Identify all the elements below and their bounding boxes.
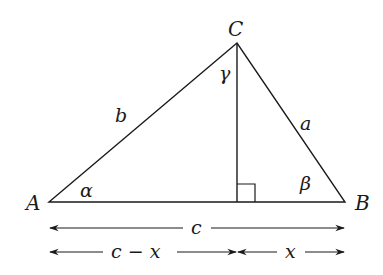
side-label-a: a <box>300 112 311 134</box>
dimension-label-c: c <box>191 216 202 238</box>
vertex-label-c: C <box>228 17 243 41</box>
dimension-label-x: x <box>285 240 296 262</box>
vertex-label-b: B <box>354 191 370 215</box>
dimension-label-c-minus-x: c − x <box>111 240 161 262</box>
right-angle-marker <box>237 184 255 202</box>
angle-label-beta: β <box>299 172 311 194</box>
side-label-b: b <box>115 104 127 126</box>
angle-label-alpha: α <box>80 179 93 201</box>
triangle-diagram: A B C b a α β γ c c − x x <box>0 0 383 275</box>
vertex-label-a: A <box>24 191 40 215</box>
angle-label-gamma: γ <box>219 62 231 84</box>
